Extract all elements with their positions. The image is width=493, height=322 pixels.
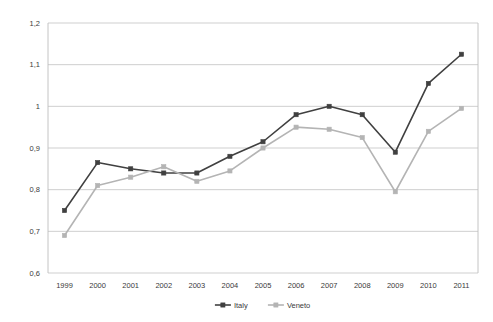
data-point-marker [162,165,166,169]
data-point-marker [228,154,232,158]
y-tick-label: 1,1 [30,60,40,69]
data-point-marker [96,160,100,164]
data-point-marker [360,135,364,139]
data-point-marker [294,113,298,117]
data-point-marker [393,190,397,194]
data-point-marker [459,106,463,110]
line-chart: 0,60,70,80,911,11,2 19992000200120022003… [0,0,493,322]
legend-marker-icon [274,303,278,307]
x-tick-label: 2003 [189,281,206,290]
data-point-marker [96,183,100,187]
legend-marker-icon [221,303,225,307]
data-point-marker [261,140,265,144]
x-tick-label: 1999 [56,281,73,290]
y-tick-label: 0,9 [30,144,40,153]
data-point-marker [62,233,66,237]
y-tick-label: 0,8 [30,185,40,194]
data-point-marker [327,127,331,131]
x-tick-label: 2011 [453,281,469,290]
data-point-marker [261,146,265,150]
data-point-marker [360,113,364,117]
legend-label: Veneto [287,301,310,310]
y-tick-label: 1,2 [30,19,40,28]
x-tick-label: 2010 [420,281,437,290]
x-tick-label: 2000 [89,281,106,290]
y-tick-label: 1 [36,102,40,111]
data-point-marker [294,125,298,129]
x-tick-label: 2007 [321,281,338,290]
y-tick-label: 0,6 [30,269,40,278]
data-point-marker [129,167,133,171]
x-tick-label: 2002 [155,281,172,290]
x-tick-label: 2001 [122,281,139,290]
data-point-marker [228,169,232,173]
legend-label: Italy [234,301,248,310]
x-tick-label: 2008 [354,281,371,290]
chart-background [0,0,493,322]
data-point-marker [195,179,199,183]
data-point-marker [195,171,199,175]
chart-canvas: 0,60,70,80,911,11,2 19992000200120022003… [0,0,493,322]
x-tick-label: 2004 [222,281,239,290]
data-point-marker [162,171,166,175]
data-point-marker [426,81,430,85]
data-point-marker [129,175,133,179]
x-tick-label: 2005 [255,281,272,290]
x-tick-label: 2006 [288,281,305,290]
y-tick-label: 0,7 [30,227,40,236]
data-point-marker [393,150,397,154]
data-point-marker [327,104,331,108]
data-point-marker [426,129,430,133]
data-point-marker [459,52,463,56]
x-tick-label: 2009 [387,281,404,290]
data-point-marker [62,208,66,212]
